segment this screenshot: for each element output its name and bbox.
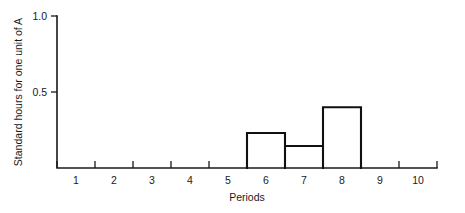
- x-axis-tick-label: 5: [225, 174, 231, 186]
- y-axis-tick-label: 1.0: [32, 10, 47, 22]
- x-axis-tick-label: 10: [412, 174, 424, 186]
- y-axis-title: Standard hours for one unit of A: [12, 18, 24, 166]
- x-axis-tick-label: 7: [301, 174, 307, 186]
- x-axis-tick-label: 1: [73, 174, 79, 186]
- x-axis-tick-label: 9: [377, 174, 383, 186]
- y-axis-tick-label: 0.5: [32, 86, 47, 98]
- x-axis-tick-label: 3: [149, 174, 155, 186]
- histogram-bars: [247, 107, 361, 168]
- x-axis-title: Periods: [229, 191, 265, 203]
- x-axis-tick-label: 6: [263, 174, 269, 186]
- histogram-chart: 0.51.012345678910PeriodsStandard hours f…: [0, 0, 465, 213]
- x-axis-tick-label: 8: [339, 174, 345, 186]
- chart-container: 0.51.012345678910PeriodsStandard hours f…: [0, 0, 465, 213]
- x-axis-tick-label: 2: [111, 174, 117, 186]
- x-axis-tick-label: 4: [187, 174, 193, 186]
